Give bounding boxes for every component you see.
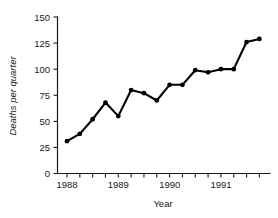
data-point	[65, 139, 70, 144]
data-point	[129, 88, 134, 93]
y-tick-label-50: 50	[39, 116, 50, 127]
data-point	[77, 131, 82, 136]
data-point	[167, 82, 172, 87]
y-axis-tick-labels: 150 125 100 75 50 25 0	[34, 12, 50, 180]
line-chart: 150 125 100 75 50 25 0 1988 1989 1990 19…	[0, 0, 278, 218]
x-tick-label-1989: 1989	[108, 179, 129, 190]
series-markers-deaths-per-quarter	[65, 37, 262, 144]
data-point	[90, 117, 95, 122]
y-tick-label-100: 100	[34, 64, 50, 75]
data-point	[103, 100, 108, 105]
data-point	[219, 67, 224, 72]
data-point	[154, 98, 159, 103]
x-axis-tick-labels: 1988 1989 1990 1991	[56, 179, 231, 190]
data-point	[193, 68, 198, 73]
x-tick-label-1991: 1991	[210, 179, 231, 190]
series-line-deaths-per-quarter	[67, 39, 259, 141]
data-point	[206, 70, 211, 75]
y-tick-label-0: 0	[45, 168, 50, 179]
x-axis-title: Year	[153, 198, 172, 209]
chart-figure: 150 125 100 75 50 25 0 1988 1989 1990 19…	[0, 0, 278, 218]
y-tick-label-150: 150	[34, 12, 50, 23]
y-axis-title: Deaths per quarter	[7, 56, 18, 136]
y-tick-label-125: 125	[34, 38, 50, 49]
data-series-group	[65, 37, 262, 144]
data-point	[257, 37, 262, 42]
data-point	[180, 82, 185, 87]
x-tick-label-1988: 1988	[56, 179, 77, 190]
axes-group	[58, 17, 271, 174]
data-point	[244, 40, 249, 45]
data-point	[231, 67, 236, 72]
y-tick-label-75: 75	[39, 90, 50, 101]
data-point	[116, 114, 121, 119]
y-tick-label-25: 25	[39, 142, 50, 153]
data-point	[142, 91, 147, 96]
x-tick-label-1990: 1990	[159, 179, 180, 190]
